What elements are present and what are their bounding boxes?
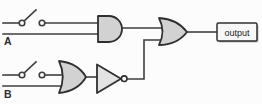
switch-a-right-terminal (39, 20, 45, 26)
not-gate-triangle (97, 65, 121, 94)
not-gate-bubble (121, 76, 127, 82)
wire-not-to-or-riser (127, 40, 162, 79)
switch-b-right-terminal (39, 72, 45, 78)
or-gate-bottom-icon (59, 61, 86, 93)
switch-a-lever (24, 10, 36, 21)
logic-circuit-diagram: output A B (0, 0, 262, 104)
input-label-a: A (4, 35, 12, 47)
not-gate-icon (97, 65, 127, 94)
switch-a (19, 10, 45, 26)
output-box: output (217, 23, 259, 43)
input-label-b: B (4, 88, 12, 100)
or-gate-top-icon (159, 18, 187, 45)
circuit-canvas: output A B (0, 0, 262, 104)
switch-b (19, 62, 45, 78)
switch-b-left-terminal (19, 72, 25, 78)
and-gate-icon (98, 16, 122, 42)
switch-a-left-terminal (19, 20, 25, 26)
output-label: output (224, 28, 250, 38)
switch-b-lever (24, 62, 36, 73)
